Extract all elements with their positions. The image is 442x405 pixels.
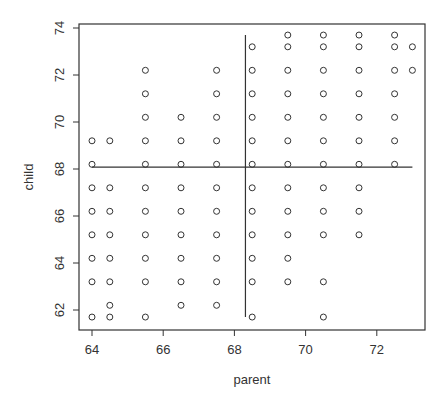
data-point [285,138,291,144]
data-point [320,67,326,73]
data-point [89,314,95,320]
data-point [392,91,398,97]
data-point [320,114,326,120]
data-point [320,314,326,320]
data-point [320,138,326,144]
data-point [249,91,255,97]
data-point [178,161,184,167]
data-point [392,114,398,120]
x-axis: 6466687072 [85,330,384,357]
data-point [142,138,148,144]
data-point [142,185,148,191]
data-point [392,138,398,144]
data-point [142,67,148,73]
data-point [392,67,398,73]
data-point [107,232,113,238]
data-point [214,302,220,308]
data-point [142,208,148,214]
data-point [320,32,326,38]
data-point [214,67,220,73]
data-point [214,185,220,191]
y-axis-title: child [21,164,36,191]
data-point [356,67,362,73]
data-point [285,161,291,167]
data-point [107,302,113,308]
plot-frame [79,24,425,330]
y-tick-label: 62 [52,303,67,317]
data-point [285,67,291,73]
data-point [214,255,220,261]
data-point [89,208,95,214]
y-axis: 62646668707274 [52,21,79,317]
y-tick-label: 66 [52,209,67,223]
data-point [249,208,255,214]
x-axis-title: parent [234,372,271,387]
data-point [142,255,148,261]
data-point [249,314,255,320]
data-point [285,185,291,191]
data-point [214,208,220,214]
data-point [356,44,362,50]
data-point [214,232,220,238]
x-tick-label: 70 [298,342,312,357]
data-point [320,161,326,167]
data-point [214,138,220,144]
data-point [356,185,362,191]
y-tick-label: 68 [52,162,67,176]
data-point [107,138,113,144]
data-point [285,91,291,97]
data-point [356,161,362,167]
data-point [178,138,184,144]
data-point [356,114,362,120]
y-tick-label: 74 [52,21,67,35]
data-point [89,185,95,191]
data-point [285,255,291,261]
data-point [178,255,184,261]
data-point [249,185,255,191]
data-point [214,279,220,285]
data-point [392,32,398,38]
x-tick-label: 72 [370,342,384,357]
data-point [320,91,326,97]
data-point [356,138,362,144]
data-point [249,232,255,238]
data-point [89,279,95,285]
data-point [356,232,362,238]
data-point [320,232,326,238]
data-point [356,91,362,97]
data-point [285,279,291,285]
data-point [320,208,326,214]
data-point [178,232,184,238]
data-point [249,138,255,144]
data-point [320,185,326,191]
data-point [107,255,113,261]
data-point [214,161,220,167]
data-point [285,114,291,120]
data-point [356,208,362,214]
data-point [107,279,113,285]
data-point [320,279,326,285]
data-point [249,279,255,285]
data-point [178,185,184,191]
data-point [285,32,291,38]
x-tick-label: 64 [85,342,99,357]
data-point [107,314,113,320]
data-point [142,114,148,120]
data-point [214,114,220,120]
data-point [89,138,95,144]
data-point [107,185,113,191]
data-point [249,255,255,261]
data-point [89,232,95,238]
data-point [178,114,184,120]
x-tick-label: 68 [227,342,241,357]
data-point [178,208,184,214]
data-point [285,44,291,50]
x-tick-label: 66 [156,342,170,357]
scatter-chart: 6466687072 62646668707274 parent child [0,0,442,405]
data-point [285,232,291,238]
data-point [249,44,255,50]
data-point [142,161,148,167]
data-point [142,91,148,97]
data-point [285,208,291,214]
data-point [409,44,415,50]
